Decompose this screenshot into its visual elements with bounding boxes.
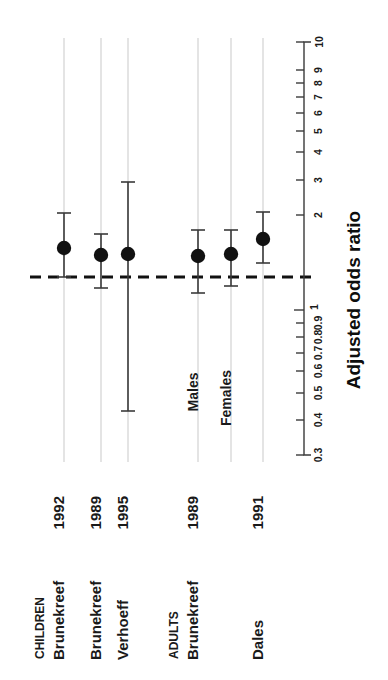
axis-tick-label-5: 5 (312, 128, 324, 134)
forest-plot-canvas: 0.3 0.4 0.5 0.6 0.7 0.8 0.9 1 2 3 4 5 6 … (0, 0, 388, 680)
axis-tick-label-0-5: 0.5 (312, 386, 324, 401)
year-label-dales-1991: 1991 (249, 496, 266, 529)
forest-plot-figure: 0.3 0.4 0.5 0.6 0.7 0.8 0.9 1 2 3 4 5 6 … (0, 0, 388, 680)
point-marker (191, 249, 205, 263)
value-axis: 0.3 0.4 0.5 0.6 0.7 0.8 0.9 1 2 3 4 5 6 … (294, 36, 364, 462)
axis-tick-label-0-3: 0.3 (312, 448, 324, 463)
axis-tick-label-8: 8 (312, 80, 324, 86)
axis-tick-label-3: 3 (312, 177, 324, 183)
point-marker (224, 247, 238, 261)
study-row-dales-1991 (256, 212, 270, 263)
study-row-brunekreef-1989-males (191, 230, 205, 293)
study-label-dales-1991: Dales (249, 620, 266, 660)
group-heading-children: CHILDREN (33, 597, 47, 659)
point-marker (57, 241, 71, 255)
year-label-brunekreef-1992: 1992 (50, 496, 67, 529)
axis-tick-label-0-9: 0.9 (312, 316, 324, 331)
point-marker (94, 248, 108, 262)
study-label-brunekreef-1989-adults: Brunekreef (184, 580, 201, 660)
study-label-verhoeff-1995: Verhoeff (114, 599, 131, 660)
study-row-verhoeff-1995 (121, 182, 135, 411)
axis-tick-label-10: 10 (313, 36, 325, 48)
study-label-brunekreef-1992: Brunekreef (50, 580, 67, 660)
sex-label-males: Males (185, 372, 201, 411)
study-label-brunekreef-1989-children: Brunekreef (87, 580, 104, 660)
sex-label-females: Females (218, 370, 234, 426)
study-row-brunekreef-1992 (57, 213, 71, 277)
axis-tick-label-0-4: 0.4 (312, 413, 324, 428)
axis-tick-label-1: 1 (308, 304, 320, 310)
axis-tick-label-0-6: 0.6 (312, 364, 324, 379)
axis-tick-label-4: 4 (312, 149, 324, 155)
axis-tick-label-0-8: 0.8 (312, 330, 324, 345)
group-heading-adults: ADULTS (167, 611, 181, 659)
axis-tick-label-9: 9 (312, 67, 324, 73)
axis-tick-label-7: 7 (312, 94, 324, 100)
point-marker (256, 232, 270, 246)
axis-spine (304, 42, 311, 455)
year-label-brunekreef-1989-children: 1989 (87, 496, 104, 529)
point-marker (121, 247, 135, 261)
axis-tick-label-6: 6 (312, 110, 324, 116)
axis-tick-label-0-7: 0.7 (312, 346, 324, 361)
study-row-brunekreef-1989-children (94, 234, 108, 288)
axis-tick-label-2: 2 (312, 212, 324, 218)
axis-title: Adjusted odds ratio (343, 211, 364, 389)
year-label-brunekreef-1989-adults: 1989 (184, 496, 201, 529)
year-label-verhoeff-1995: 1995 (114, 496, 131, 529)
